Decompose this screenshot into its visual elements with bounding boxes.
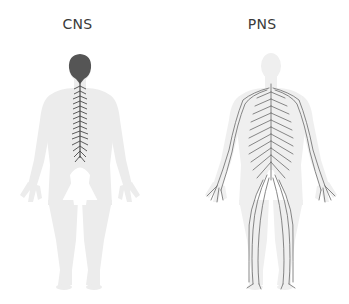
brain-shape — [69, 54, 91, 84]
cns-body-figure — [0, 0, 175, 304]
pns-panel: PNS — [175, 0, 349, 304]
pns-body-figure — [175, 0, 349, 304]
crotch-gap — [70, 168, 90, 206]
cns-panel: CNS — [0, 0, 175, 304]
nerve-network — [207, 84, 335, 289]
